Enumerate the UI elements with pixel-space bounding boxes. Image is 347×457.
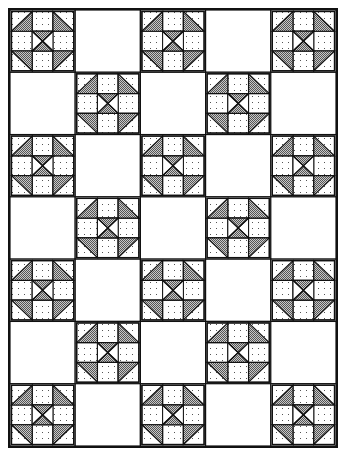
pieced-block (140, 135, 205, 197)
plain-block (206, 259, 271, 321)
plain-block (140, 321, 205, 383)
plain-block (206, 10, 271, 72)
pieced-block (206, 72, 271, 134)
quilt-diagram (8, 8, 338, 448)
plain-block (75, 259, 140, 321)
plain-block (271, 72, 336, 134)
pieced-block (271, 135, 336, 197)
plain-block (10, 72, 75, 134)
plain-block (10, 197, 75, 259)
plain-block (10, 321, 75, 383)
plain-block (206, 135, 271, 197)
pieced-block (271, 384, 336, 446)
plain-block (206, 384, 271, 446)
pieced-block (206, 197, 271, 259)
pieced-block (271, 10, 336, 72)
pieced-block (140, 384, 205, 446)
pieced-block (10, 135, 75, 197)
plain-block (140, 197, 205, 259)
pieced-block (75, 197, 140, 259)
quilt-grid (10, 10, 336, 446)
pieced-block (140, 10, 205, 72)
plain-block (75, 135, 140, 197)
plain-block (140, 72, 205, 134)
plain-block (75, 10, 140, 72)
plain-block (271, 321, 336, 383)
plain-block (271, 197, 336, 259)
pieced-block (271, 259, 336, 321)
pieced-block (75, 321, 140, 383)
pieced-block (140, 259, 205, 321)
pieced-block (10, 10, 75, 72)
pieced-block (10, 384, 75, 446)
pieced-block (75, 72, 140, 134)
pieced-block (10, 259, 75, 321)
plain-block (75, 384, 140, 446)
pieced-block (206, 321, 271, 383)
